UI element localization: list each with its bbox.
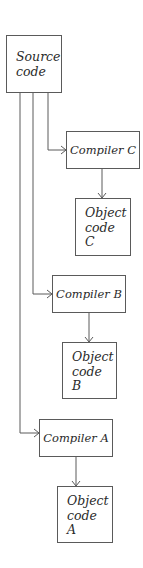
compiler-a-label: Compiler A <box>40 420 112 456</box>
source-code-label: Source code <box>16 50 61 79</box>
object-code-b-box: Object code B <box>62 342 117 399</box>
object-code-a-label: Object code A <box>67 494 109 538</box>
compiler-c-label: Compiler C <box>67 132 139 168</box>
compiler-a-box: Compiler A <box>39 419 113 457</box>
source-code-box: Source code <box>6 35 62 93</box>
compiler-b-box: Compiler B <box>52 275 126 313</box>
object-code-c-box: Object code C <box>75 198 131 256</box>
object-code-a-box: Object code A <box>57 486 113 543</box>
object-code-b-label: Object code B <box>72 350 114 394</box>
compiler-b-label: Compiler B <box>53 276 125 312</box>
compiler-c-box: Compiler C <box>66 131 140 169</box>
object-code-c-label: Object code C <box>85 206 127 250</box>
